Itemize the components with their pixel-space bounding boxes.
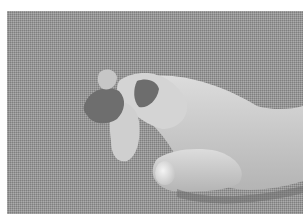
thumb-nail bbox=[155, 161, 175, 185]
clinical-photo bbox=[7, 11, 303, 214]
hand-illustration bbox=[7, 11, 303, 214]
fingertip-highlight bbox=[98, 70, 117, 90]
